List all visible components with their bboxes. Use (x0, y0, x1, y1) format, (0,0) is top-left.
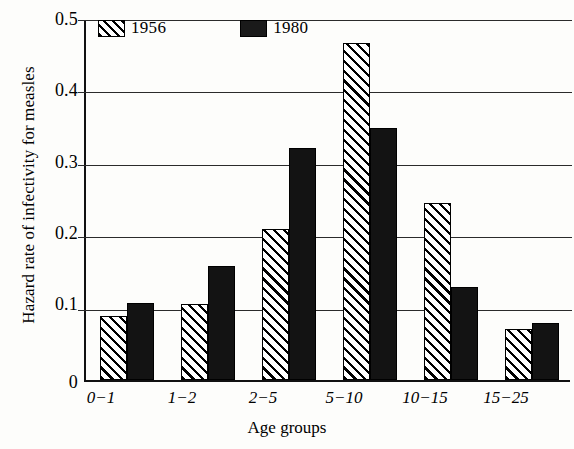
bar-group-15-25 (505, 20, 559, 380)
legend-entry-1980: 1980 (240, 18, 308, 38)
bar-1956-1-2[interactable] (181, 304, 208, 380)
legend-swatch-hatched-icon (98, 20, 125, 37)
bar-1956-10-15[interactable] (424, 203, 451, 380)
bar-chart-figure: Hazard rate of infectivity for measles 0… (0, 0, 574, 449)
legend-label-1980: 1980 (273, 18, 308, 38)
gridline-0.4 (86, 92, 572, 93)
bar-group-10-15 (424, 20, 478, 380)
bar-1980-1-2[interactable] (208, 266, 235, 380)
y-tick-label-0.4: 0.4 (18, 80, 78, 101)
bar-1980-5-10[interactable] (370, 128, 397, 380)
gridline-0.1 (86, 310, 572, 311)
bar-group-1-2 (181, 20, 235, 380)
x-axis-title: Age groups (0, 418, 574, 438)
legend-swatch-solid-icon (240, 20, 267, 37)
y-tick-label-0.1: 0.1 (18, 294, 78, 315)
y-axis-title: Hazard rate of infectivity for measles (19, 15, 39, 375)
bar-1956-0-1[interactable] (100, 316, 127, 380)
y-tick-label-0.2: 0.2 (18, 223, 78, 244)
plot-area: 1956 1980 (84, 20, 570, 382)
bar-group-2-5 (262, 20, 316, 380)
gridline-0.3 (86, 165, 572, 166)
y-tick-mark-0.1 (78, 310, 86, 311)
bar-1956-2-5[interactable] (262, 229, 289, 380)
bar-1980-10-15[interactable] (451, 287, 478, 380)
y-tick-label-0.3: 0.3 (18, 152, 78, 173)
gridline-0.2 (86, 237, 572, 238)
y-tick-label-0.5: 0.5 (18, 9, 78, 30)
bar-group-0-1 (100, 20, 154, 380)
bar-1980-15-25[interactable] (532, 323, 559, 380)
bar-1956-5-10[interactable] (343, 43, 370, 380)
legend-entry-1956: 1956 (98, 18, 166, 38)
y-tick-mark-0.3 (78, 165, 86, 166)
bar-1980-2-5[interactable] (289, 148, 316, 380)
x-tick-label-15-25: 15−25 (446, 388, 566, 408)
bar-1980-0-1[interactable] (127, 303, 154, 380)
bar-1956-15-25[interactable] (505, 329, 532, 380)
y-tick-mark-0.4 (78, 92, 86, 93)
legend-label-1956: 1956 (131, 18, 166, 38)
y-tick-mark-0.5 (78, 20, 86, 21)
y-tick-mark-0.2 (78, 237, 86, 238)
legend: 1956 1980 (98, 18, 308, 38)
bar-group-5-10 (343, 20, 397, 380)
